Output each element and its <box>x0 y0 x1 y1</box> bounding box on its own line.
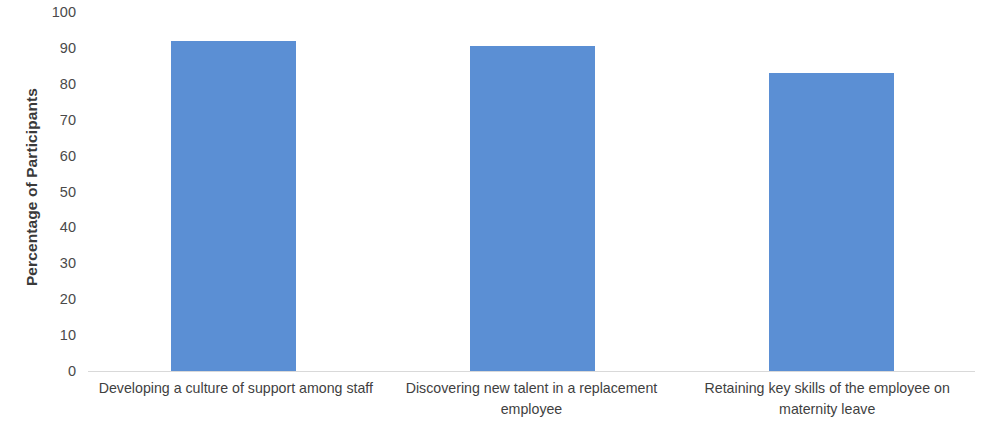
x-axis-category-label: Developing a culture of support among st… <box>88 378 384 428</box>
bar[interactable] <box>769 73 894 371</box>
bar[interactable] <box>171 41 296 371</box>
x-axis-category-label: Discovering new talent in a replacement … <box>384 378 680 428</box>
bar[interactable] <box>470 46 595 371</box>
bar-chart: Percentage of Participants 1009080706050… <box>0 0 983 428</box>
bars-layer <box>0 0 983 371</box>
x-axis-category-labels: Developing a culture of support among st… <box>88 378 975 428</box>
x-axis-baseline <box>88 371 975 372</box>
x-axis-category-label: Retaining key skills of the employee on … <box>679 378 975 428</box>
